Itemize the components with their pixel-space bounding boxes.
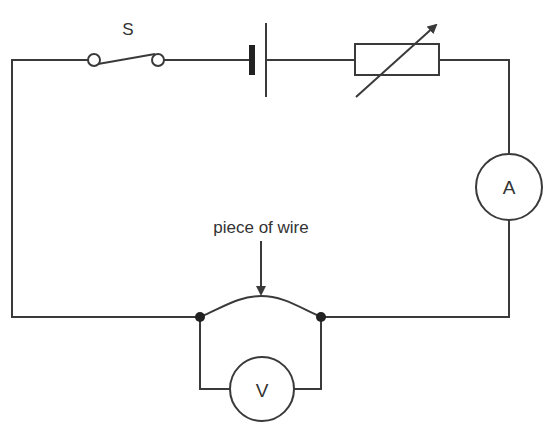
switch-label: S [122,20,133,39]
circuit-svg: S A V piece of wire [0,0,558,432]
switch-lever [98,54,155,64]
switch [88,54,164,66]
voltmeter-branch-right [294,317,321,389]
voltmeter-branch-left [200,317,230,389]
cell [249,23,266,97]
junction-right [316,312,326,322]
wire-resistor-to-ammeter [439,60,509,154]
cell-negative-plate [249,45,255,75]
variable-resistor [355,25,439,97]
wire-annotation-label: piece of wire [213,218,308,237]
left-wire [12,60,196,317]
voltmeter-label: V [256,380,269,401]
switch-contact-right [152,54,164,66]
ammeter-label: A [503,177,516,198]
junction-left [195,312,205,322]
wire-ammeter-to-junction [325,220,509,317]
piece-of-wire [200,296,321,317]
circuit-diagram: S A V piece of wire [0,0,558,432]
variable-arrow-icon [356,25,436,97]
